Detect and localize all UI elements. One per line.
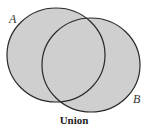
diagram-caption: Union <box>60 114 89 126</box>
venn-diagram: A B Union <box>0 0 152 131</box>
set-a-label: A <box>8 12 17 26</box>
set-b-label: B <box>133 92 141 106</box>
